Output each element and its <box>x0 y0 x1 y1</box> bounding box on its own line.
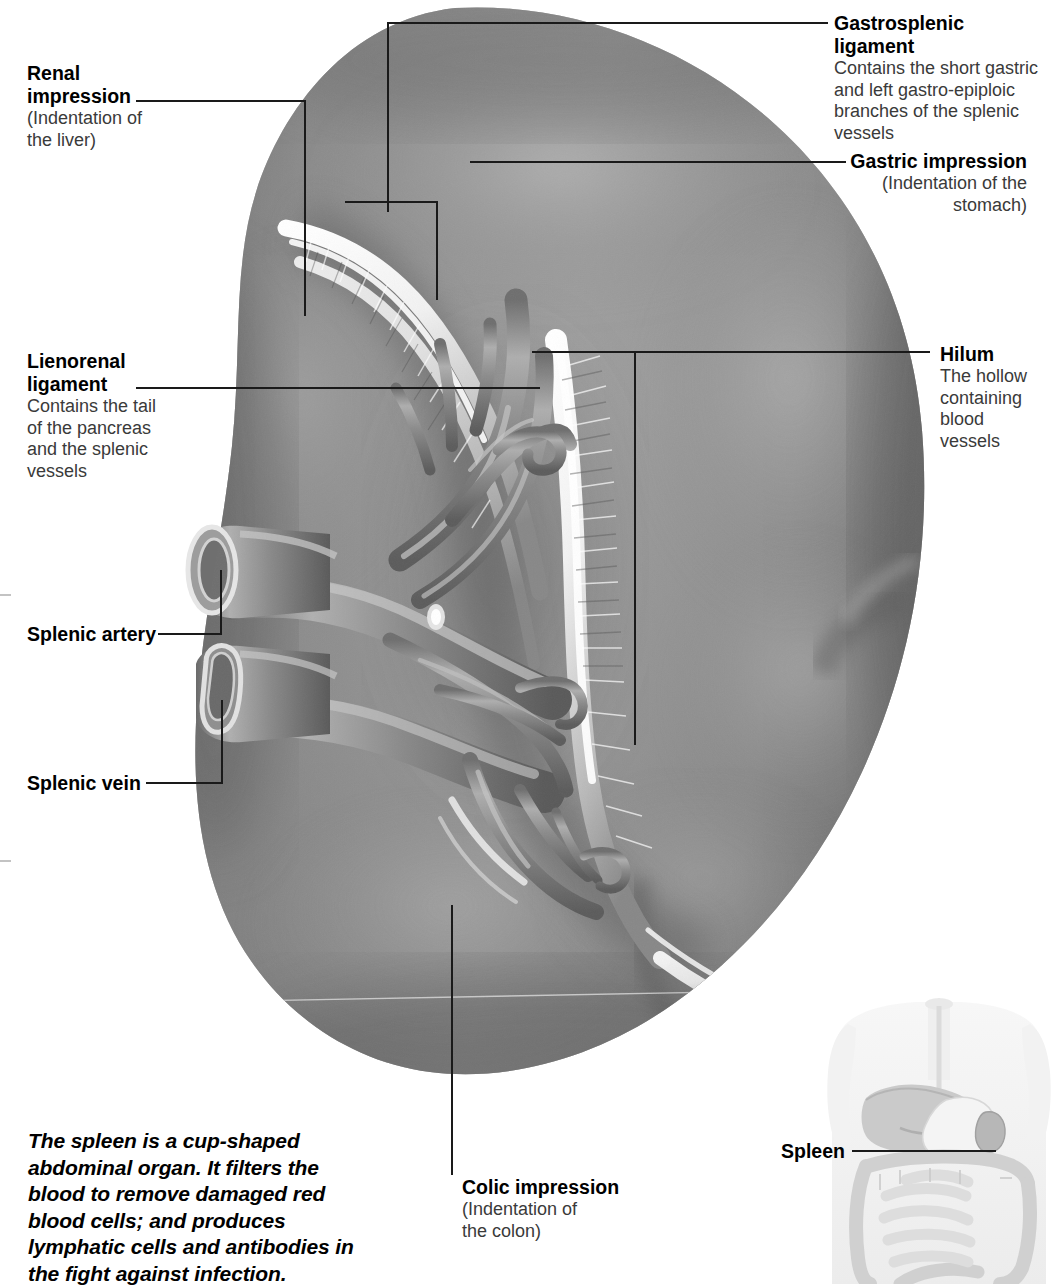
label-sub-line: The hollow <box>940 366 1050 388</box>
figure-caption: The spleen is a cup-shaped abdominal org… <box>28 1128 388 1287</box>
label-splenic-vein: Splenic vein <box>27 772 141 795</box>
label-title: Hilum <box>940 343 1050 366</box>
label-title-line2: ligament <box>27 373 227 396</box>
label-sub-line: containing <box>940 388 1050 410</box>
label-lienorenal-ligament: Lienorenal ligament Contains the tail of… <box>27 350 227 482</box>
caption-line: blood to remove damaged red <box>28 1181 388 1208</box>
label-sub-line: Contains the short gastric <box>834 58 1049 80</box>
label-title: Gastric impression <box>824 150 1027 173</box>
label-sub-line: blood <box>940 409 1050 431</box>
caption-line: blood cells; and produces <box>28 1208 388 1235</box>
caption-line: the fight against infection. <box>28 1261 388 1287</box>
label-sub-line: the colon) <box>462 1221 682 1243</box>
label-sub-line: vessels <box>834 123 1049 145</box>
label-sub-line: stomach) <box>824 195 1027 217</box>
label-sub-line: branches of the splenic <box>834 101 1049 123</box>
label-sub-line: and the splenic <box>27 439 227 461</box>
caption-line: lymphatic cells and antibodies in <box>28 1234 388 1261</box>
label-sub-line: (Indentation of <box>462 1199 682 1221</box>
label-sub-line: the liver) <box>27 130 217 152</box>
label-splenic-artery: Splenic artery <box>27 623 156 646</box>
label-sub-line: vessels <box>940 431 1050 453</box>
label-spleen-locator: Spleen <box>781 1140 845 1163</box>
label-title: Lienorenal <box>27 350 227 373</box>
label-gastric-impression: Gastric impression (Indentation of the s… <box>824 150 1027 216</box>
label-sub-line: Contains the tail <box>27 396 227 418</box>
label-sub-line: and left gastro-epiploic <box>834 80 1049 102</box>
label-title: Colic impression <box>462 1176 682 1199</box>
body-locator-diagram <box>827 998 1051 1284</box>
label-sub-line: (Indentation of the <box>824 173 1027 195</box>
label-gastrosplenic-ligament: Gastrosplenic ligament Contains the shor… <box>834 12 1049 144</box>
label-title-line2: impression <box>27 85 217 108</box>
label-hilum: Hilum The hollow containing blood vessel… <box>940 343 1050 452</box>
label-title: Renal <box>27 62 217 85</box>
label-sub-line: vessels <box>27 461 227 483</box>
label-sub-line: (Indentation of <box>27 108 217 130</box>
caption-line: The spleen is a cup-shaped <box>28 1128 388 1155</box>
label-renal-impression: Renal impression (Indentation of the liv… <box>27 62 217 151</box>
label-sub-line: of the pancreas <box>27 418 227 440</box>
label-title: Gastrosplenic ligament <box>834 12 1049 58</box>
label-colic-impression: Colic impression (Indentation of the col… <box>462 1176 682 1242</box>
caption-line: abdominal organ. It filters the <box>28 1155 388 1182</box>
